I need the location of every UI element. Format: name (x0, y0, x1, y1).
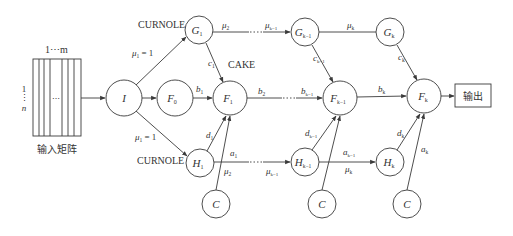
output-label: 输出 (463, 90, 483, 102)
label-mu2-top: μ2 (221, 20, 230, 31)
edge-Gk-Fk (397, 45, 417, 80)
label-b1: b1 (196, 84, 204, 95)
node-G1-label: G1 (192, 24, 203, 37)
node-Fk-label: Fk (417, 90, 428, 103)
edge-Fk-1-Fk (357, 96, 406, 97)
node-Fk-1 (323, 81, 357, 115)
label-ak: ak (421, 144, 429, 155)
label-mu1-top: μ1 = 1 (131, 48, 153, 59)
node-F1-label: F1 (222, 92, 233, 105)
edge-C2-Fk-1 (322, 116, 340, 190)
label-muk-bottom: μk (344, 164, 353, 175)
node-Hk-1-label: Hk−1 (294, 156, 312, 169)
label-muk-top: μk (346, 20, 355, 31)
label-bk-1: bk−1 (301, 86, 314, 97)
node-H1-label: H1 (192, 157, 204, 170)
label-a1: a1 (230, 148, 238, 159)
node-F0 (157, 80, 193, 116)
node-C2-label: C (318, 198, 326, 210)
neural-network-diagram: 1⋯m 1 ⋮ n ⋯ 输入矩阵 CURNOLE CURNOLE CAKE I … (0, 0, 513, 236)
matrix-caption: 输入矩阵 (37, 143, 77, 155)
label-c1: c1 (208, 58, 215, 69)
node-Gk-label: Gk (384, 26, 395, 39)
node-F1 (213, 81, 247, 115)
edge-Hk-1-Fk-1 (312, 116, 336, 150)
node-Fk-1-label: Fk−1 (329, 92, 346, 105)
label-b2: b2 (258, 86, 266, 97)
node-input-label: I (121, 92, 127, 104)
node-Hk-label: Hk (383, 156, 395, 169)
label-mu2-bottom: μ2 (223, 166, 232, 177)
node-C1-label: C (212, 198, 220, 210)
label-bk: bk (378, 84, 386, 95)
label-mu1-bottom: μ1 = 1 (134, 132, 156, 143)
label-ak-1: ak−1 (343, 147, 356, 158)
label-dk-1: dk−1 (305, 128, 318, 139)
matrix-rows-bottom: n (22, 103, 27, 113)
matrix-rows-dots: ⋮ (20, 93, 29, 103)
curnole-bottom-label: CURNOLE (137, 155, 184, 166)
edge-I-G1 (136, 37, 186, 85)
label-ck: ck (398, 52, 405, 63)
matrix-columns-label: 1⋯m (45, 44, 68, 55)
label-d1: d1 (206, 130, 214, 141)
node-Gk-1-label: Gk−1 (295, 26, 312, 39)
cake-label: CAKE (228, 59, 255, 70)
label-dk: dk (397, 128, 405, 139)
curnole-top-label: CURNOLE (138, 19, 185, 30)
edge-C1-F1 (216, 116, 230, 190)
matrix-inner-dots: ⋯ (52, 94, 60, 103)
node-C3-label: C (403, 198, 411, 210)
label-muk1-bottom: μk−1 (265, 166, 279, 177)
label-muk1-top: μk−1 (264, 20, 278, 31)
label-ck-1: ck−1 (313, 53, 325, 64)
node-F0-label: F0 (166, 92, 177, 105)
